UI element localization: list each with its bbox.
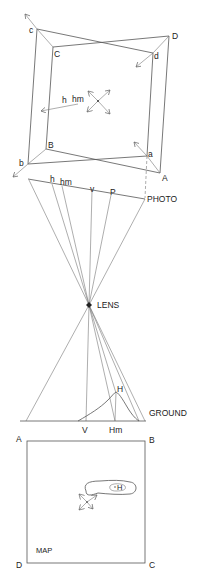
- light-rays: [26, 180, 145, 421]
- map-cross-icon: [79, 494, 97, 510]
- photo-line: [28, 179, 145, 199]
- map-contour-outer: [85, 480, 136, 495]
- map: A B C D MAP H: [16, 434, 155, 570]
- label-photo-v: v: [90, 184, 95, 194]
- label-h: h: [62, 95, 67, 105]
- arrow-a-icon: [134, 142, 147, 156]
- photo-plane: h hm v P PHOTO: [28, 174, 177, 204]
- label-map-A: A: [16, 434, 22, 444]
- projection-dashed-line: [145, 156, 147, 198]
- center-cross-icon: [87, 90, 110, 114]
- label-Hm: Hm: [109, 425, 122, 435]
- label-map: MAP: [36, 546, 52, 555]
- label-A: A: [162, 173, 168, 183]
- label-b: b: [19, 158, 24, 168]
- label-map-B: B: [149, 435, 155, 445]
- map-frame: [27, 441, 145, 563]
- label-map-D: D: [16, 560, 22, 570]
- label-map-H: H: [117, 483, 122, 492]
- map-summit-point: [114, 486, 115, 487]
- photo-frame: c C D d B b a A h hm: [13, 14, 178, 183]
- arrow-d-icon: [136, 53, 153, 67]
- lens-point-icon: [86, 302, 92, 308]
- label-B: B: [48, 140, 54, 150]
- label-lens: LENS: [97, 300, 120, 310]
- photogrammetry-diagram: c C D d B b a A h hm h hm v P PHOTO: [0, 0, 200, 582]
- label-photo-hm: hm: [60, 177, 72, 187]
- label-c: c: [29, 25, 34, 35]
- label-H: H: [117, 384, 123, 394]
- label-C: C: [54, 49, 60, 59]
- label-hm: hm: [72, 94, 84, 104]
- label-a: a: [148, 149, 153, 159]
- label-D: D: [172, 31, 178, 41]
- ground: H GROUND V Hm: [20, 384, 187, 435]
- label-photo: PHOTO: [147, 194, 177, 204]
- connector-B-b: [28, 149, 46, 164]
- hill-vertical: [115, 392, 116, 421]
- label-photo-h: h: [50, 174, 55, 184]
- arrow-h-icon: [41, 104, 78, 111]
- label-d: d: [154, 51, 159, 61]
- label-map-C: C: [149, 560, 155, 570]
- hill-profile: [78, 392, 139, 421]
- label-ground: GROUND: [149, 408, 187, 418]
- label-V: V: [82, 425, 88, 435]
